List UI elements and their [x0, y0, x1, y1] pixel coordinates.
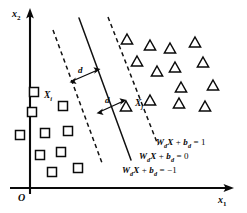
support-vector-square	[59, 102, 68, 111]
lower-margin-boundary-line	[53, 30, 102, 163]
support-vector-i-label: Xi	[44, 91, 52, 102]
upper-margin-arrow-line	[74, 71, 97, 81]
equation-upper-value: 1	[201, 137, 206, 147]
data-point-square	[16, 131, 25, 140]
y-axis-label-sub: 2	[17, 14, 21, 22]
data-point-square	[74, 164, 83, 173]
data-point-square	[30, 88, 39, 97]
data-point-square	[64, 127, 73, 136]
equation-lower-equals: =	[157, 165, 167, 175]
data-point-triangle	[169, 62, 180, 72]
data-point-triangle	[207, 80, 218, 90]
data-point-triangle	[144, 95, 155, 105]
lower-margin-distance-label: d	[105, 96, 110, 105]
lower-margin-arrow-line	[101, 102, 123, 112]
support-vector-i-sub: i	[50, 95, 52, 102]
equation-lower-value: −1	[167, 165, 177, 175]
data-point-triangle	[144, 40, 155, 50]
data-point-square	[57, 148, 66, 157]
y-axis-label: x2	[12, 9, 21, 22]
data-point-square	[41, 129, 50, 138]
equation-lower-margin: WdX + bd = −1	[122, 166, 177, 177]
support-vector-j-label: Xj	[135, 99, 143, 110]
equation-decision-equals: =	[174, 151, 184, 161]
equation-decision-value: 0	[184, 151, 189, 161]
equation-upper-w: W	[156, 137, 164, 147]
upper-margin-boundary-line	[108, 17, 158, 145]
equation-lower-plus: +	[139, 165, 149, 175]
data-point-triangle	[131, 56, 142, 66]
x-axis-label: x1	[218, 195, 227, 208]
equation-upper-plus: +	[173, 137, 183, 147]
equation-upper-margin: WdX + bd = 1	[156, 138, 206, 149]
data-point-triangle	[173, 98, 184, 108]
upper-margin-distance-label: d	[78, 66, 83, 75]
support-vector-j-sub: j	[141, 103, 143, 110]
data-point-triangle	[151, 66, 162, 76]
origin-label: O	[18, 193, 25, 203]
data-point-square	[36, 151, 45, 160]
equation-upper-equals: =	[191, 137, 201, 147]
equation-lower-w: W	[122, 165, 130, 175]
data-point-square	[28, 108, 37, 117]
equation-decision-plus: +	[156, 151, 166, 161]
upper-margin-arrowhead-left	[70, 77, 77, 84]
lower-margin-arrowhead-left	[97, 108, 104, 115]
svm-diagram-canvas	[0, 0, 247, 213]
data-point-triangle	[175, 82, 186, 92]
x-axis-label-sub: 1	[223, 200, 227, 208]
data-point-triangle	[164, 43, 175, 53]
data-point-triangle	[121, 34, 132, 44]
data-point-triangle	[197, 57, 208, 67]
equation-decision-w: W	[139, 151, 147, 161]
data-point-triangle	[199, 101, 210, 111]
svm-diagram-figure: x2 x1 O d d Xi Xj WdX + bd = 1 WdX + bd …	[0, 0, 247, 213]
equation-decision-boundary: WdX + bd = 0	[139, 152, 189, 163]
data-point-triangle	[189, 37, 200, 47]
data-point-square	[48, 168, 57, 177]
boundary-lines-group	[53, 17, 158, 163]
